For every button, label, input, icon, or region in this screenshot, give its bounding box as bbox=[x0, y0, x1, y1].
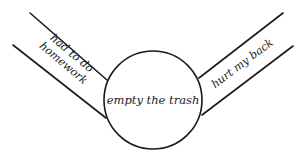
diagram-svg: empty the trash had to do homework hurt … bbox=[0, 0, 302, 158]
diagram-canvas: empty the trash had to do homework hurt … bbox=[0, 0, 302, 158]
center-label: empty the trash bbox=[107, 93, 200, 107]
